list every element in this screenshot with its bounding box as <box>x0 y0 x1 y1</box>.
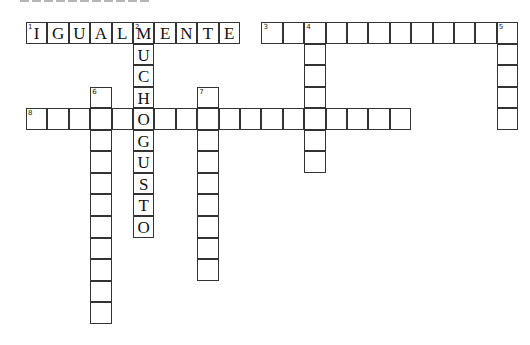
crossword-cell[interactable] <box>197 194 218 216</box>
crossword-cell[interactable] <box>326 108 347 130</box>
crossword-cell[interactable] <box>197 108 218 130</box>
crossword-cell[interactable] <box>154 108 175 130</box>
crossword-cell[interactable] <box>454 22 475 44</box>
crossword-cell[interactable]: U <box>133 44 154 66</box>
clue-number: 8 <box>28 109 32 117</box>
crossword-cell[interactable] <box>368 108 389 130</box>
crossword-cell[interactable]: 7 <box>197 87 218 109</box>
crossword-cell[interactable]: O <box>133 216 154 238</box>
crossword-cell[interactable] <box>90 173 111 195</box>
clue-number: 6 <box>92 88 96 96</box>
crossword-cell[interactable] <box>197 216 218 238</box>
clue-number: 4 <box>306 23 310 31</box>
crossword-cell[interactable]: T <box>133 194 154 216</box>
crossword-cell[interactable]: 4 <box>304 22 325 44</box>
crossword-cell[interactable] <box>304 130 325 152</box>
crossword-cell[interactable]: 2M <box>133 22 154 44</box>
crossword-cell[interactable]: U <box>69 22 90 44</box>
cell-letter: E <box>155 24 174 44</box>
crossword-cell[interactable]: S <box>133 173 154 195</box>
crossword-cell[interactable] <box>90 216 111 238</box>
crossword-cell[interactable] <box>283 22 304 44</box>
crossword-cell[interactable] <box>347 108 368 130</box>
crossword-cell[interactable] <box>112 108 133 130</box>
crossword-cell[interactable] <box>390 108 411 130</box>
crossword-cell[interactable] <box>90 194 111 216</box>
crossword-cell[interactable] <box>304 87 325 109</box>
crossword-cell[interactable]: 6 <box>90 87 111 109</box>
crossword-cell[interactable] <box>90 130 111 152</box>
crossword-cell[interactable] <box>497 87 518 109</box>
crossword-cell[interactable] <box>326 22 347 44</box>
crossword-cell[interactable]: U <box>133 151 154 173</box>
crossword-cell[interactable] <box>390 22 411 44</box>
clue-number: 3 <box>263 23 267 31</box>
cell-letter: O <box>134 218 153 238</box>
crossword-cell[interactable] <box>90 259 111 281</box>
crossword-cell[interactable] <box>90 281 111 303</box>
crossword-cell[interactable]: 5 <box>497 22 518 44</box>
cell-letter: U <box>134 153 153 173</box>
clue-number: 5 <box>499 23 503 31</box>
crossword-cell[interactable] <box>176 108 197 130</box>
crossword-cell[interactable]: T <box>197 22 218 44</box>
crossword-cell[interactable]: E <box>219 22 240 44</box>
cell-letter: G <box>48 24 67 44</box>
crossword-cell[interactable] <box>90 151 111 173</box>
cell-letter: A <box>91 24 110 44</box>
crossword-cell[interactable] <box>261 108 282 130</box>
crossword-cell[interactable]: 1I <box>26 22 47 44</box>
crossword-cell[interactable] <box>219 108 240 130</box>
crossword-cell[interactable]: 8 <box>26 108 47 130</box>
crossword-cell[interactable] <box>197 151 218 173</box>
crossword-cell[interactable]: C <box>133 65 154 87</box>
crossword-grid: 1IGUAL2MENTEUCHOGUSTO345678 <box>0 0 530 345</box>
cell-letter: G <box>134 132 153 152</box>
cell-letter: E <box>220 24 239 44</box>
crossword-cell[interactable]: G <box>47 22 68 44</box>
cell-letter: L <box>113 24 132 44</box>
crossword-cell[interactable] <box>347 22 368 44</box>
crossword-cell[interactable] <box>283 108 304 130</box>
crossword-cell[interactable] <box>47 108 68 130</box>
crossword-cell[interactable]: G <box>133 130 154 152</box>
crossword-cell[interactable] <box>304 151 325 173</box>
crossword-cell[interactable] <box>90 108 111 130</box>
crossword-cell[interactable] <box>411 22 432 44</box>
crossword-cell[interactable]: O <box>133 108 154 130</box>
crossword-cell[interactable] <box>197 259 218 281</box>
crossword-cell[interactable] <box>69 108 90 130</box>
cell-letter: T <box>198 24 217 44</box>
crossword-cell[interactable] <box>433 22 454 44</box>
crossword-cell[interactable] <box>197 173 218 195</box>
crossword-cell[interactable]: H <box>133 87 154 109</box>
crossword-cell[interactable] <box>304 65 325 87</box>
crossword-cell[interactable] <box>475 22 496 44</box>
crossword-cell[interactable]: 3 <box>261 22 282 44</box>
crossword-cell[interactable]: E <box>154 22 175 44</box>
crossword-cell[interactable] <box>497 108 518 130</box>
cell-letter: U <box>134 46 153 66</box>
cell-letter: C <box>134 67 153 87</box>
cell-letter: I <box>27 24 46 44</box>
cell-letter: S <box>134 175 153 195</box>
crossword-cell[interactable] <box>368 22 389 44</box>
crossword-cell[interactable] <box>304 108 325 130</box>
cell-letter: T <box>134 196 153 216</box>
cell-letter: H <box>134 89 153 109</box>
clue-number: 7 <box>199 88 203 96</box>
crossword-cell[interactable] <box>197 238 218 260</box>
crossword-cell[interactable] <box>497 65 518 87</box>
crossword-cell[interactable] <box>240 108 261 130</box>
crossword-cell[interactable] <box>304 44 325 66</box>
crossword-cell[interactable] <box>90 302 111 324</box>
cell-letter: O <box>134 110 153 130</box>
crossword-cell[interactable] <box>90 238 111 260</box>
cell-letter: U <box>70 24 89 44</box>
crossword-cell[interactable]: L <box>112 22 133 44</box>
crossword-cell[interactable]: N <box>176 22 197 44</box>
crossword-cell[interactable] <box>197 130 218 152</box>
crossword-cell[interactable]: A <box>90 22 111 44</box>
cell-letter: M <box>134 24 153 44</box>
crossword-cell[interactable] <box>497 44 518 66</box>
